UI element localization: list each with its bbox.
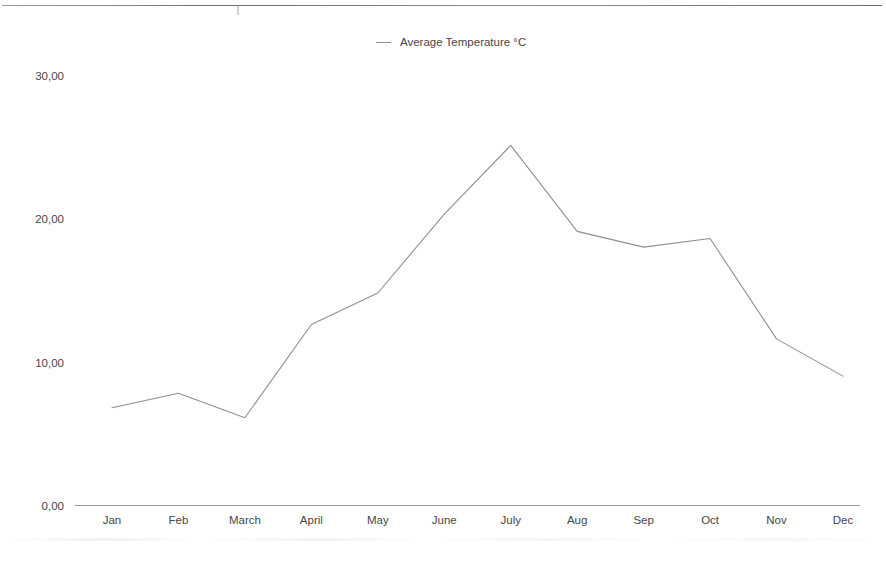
x-axis-tick-label: Nov xyxy=(742,514,812,526)
chart-canvas xyxy=(0,0,886,563)
x-axis-tick-label: April xyxy=(276,514,346,526)
y-axis-tick-label: 10,00 xyxy=(8,357,64,369)
x-axis-tick-label: Aug xyxy=(542,514,612,526)
y-axis-tick-label: 30,00 xyxy=(8,70,64,82)
x-axis-tick-label: May xyxy=(343,514,413,526)
x-axis-tick-label: June xyxy=(409,514,479,526)
x-axis-tick-label: Jan xyxy=(77,514,147,526)
x-axis-tick-label: Oct xyxy=(675,514,745,526)
data-series-line xyxy=(112,145,843,417)
x-axis-tick-label: Dec xyxy=(808,514,878,526)
x-axis-tick-label: Sep xyxy=(609,514,679,526)
x-axis-tick-label: March xyxy=(210,514,280,526)
x-axis-tick-label: July xyxy=(476,514,546,526)
line-chart-plot-area: 0,0010,0020,0030,00 JanFebMarchAprilMayJ… xyxy=(0,0,886,563)
x-axis-tick-label: Feb xyxy=(143,514,213,526)
y-axis-tick-label: 20,00 xyxy=(8,213,64,225)
y-axis-tick-label: 0,00 xyxy=(8,500,64,512)
